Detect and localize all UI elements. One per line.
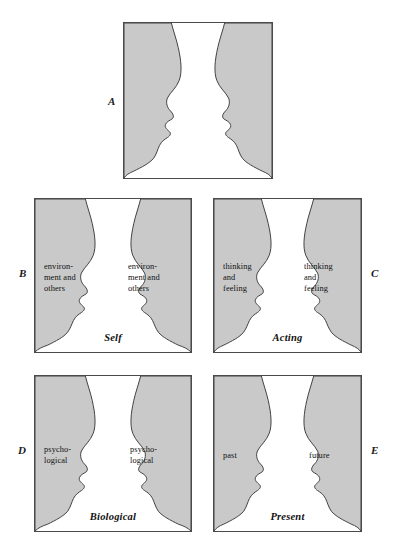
- panel-c: thinking and feeling thinking and feelin…: [213, 198, 362, 353]
- panel-letter-d: D: [18, 445, 26, 456]
- panel-d-right-label: psycho- logical: [130, 444, 188, 466]
- panel-d-bottom-label: Biological: [35, 511, 191, 522]
- panel-letter-b: B: [19, 268, 26, 279]
- panel-c-right-label: thinking and feeling: [304, 261, 362, 295]
- panel-a: [123, 22, 273, 179]
- panel-e: past future Present: [213, 375, 362, 532]
- panel-c-left-label: thinking and feeling: [223, 261, 281, 295]
- panel-b: environ- ment and others environ- ment a…: [34, 198, 192, 353]
- panel-letter-a: A: [108, 96, 115, 107]
- panel-b-bottom-label: Self: [35, 332, 191, 343]
- panel-b-right-label: environ- ment and others: [128, 261, 190, 295]
- panel-c-bottom-label: Acting: [214, 332, 361, 343]
- panel-d-left-label: psycho- logical: [44, 444, 102, 466]
- face-vase-illusion-a: [124, 23, 272, 178]
- panel-e-right-label: future: [309, 450, 362, 461]
- panel-e-left-label: past: [223, 450, 281, 461]
- panel-letter-c: C: [371, 268, 378, 279]
- panel-e-bottom-label: Present: [214, 511, 361, 522]
- panel-letter-e: E: [371, 445, 378, 456]
- panel-b-left-label: environ- ment and others: [44, 261, 106, 295]
- panel-d: psycho- logical psycho- logical Biologic…: [34, 375, 192, 532]
